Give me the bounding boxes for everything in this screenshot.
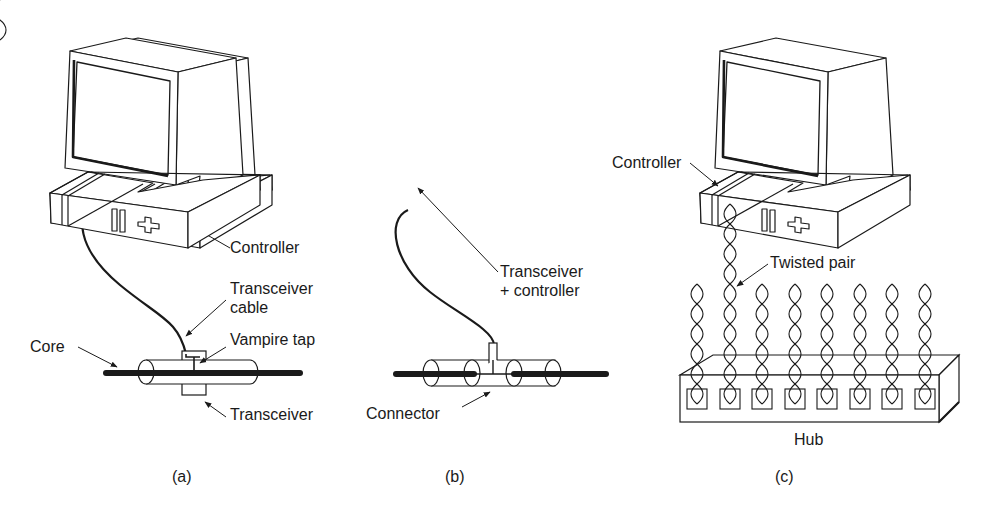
computer-icon: [700, 38, 910, 248]
label-core: Core: [30, 337, 65, 356]
label-transceiver: Transceiver: [230, 405, 313, 424]
label-twisted-pair: Twisted pair: [770, 253, 855, 272]
label-transceiver-cable-2: cable: [230, 298, 268, 317]
label-transceiver-controller-1: Transceiver: [500, 262, 583, 281]
twisted-pair-computer: [0, 0, 6, 40]
label-hub: Hub: [794, 430, 823, 449]
label-transceiver-controller-2: + controller: [500, 281, 580, 300]
label-controller-a: Controller: [230, 238, 299, 257]
computer-icon: [50, 38, 260, 248]
panel-b-drawing: [50, 38, 606, 407]
caption-a: (a): [172, 468, 192, 486]
label-connector: Connector: [366, 404, 440, 423]
label-vampire-tap: Vampire tap: [230, 330, 315, 349]
caption-c: (c): [775, 468, 794, 486]
label-controller-c: Controller: [612, 153, 681, 172]
bnc-t-connector: [423, 343, 561, 386]
transceiver-cable: [396, 210, 494, 345]
label-transceiver-cable-1: Transceiver: [230, 279, 313, 298]
caption-b: (b): [445, 468, 465, 486]
